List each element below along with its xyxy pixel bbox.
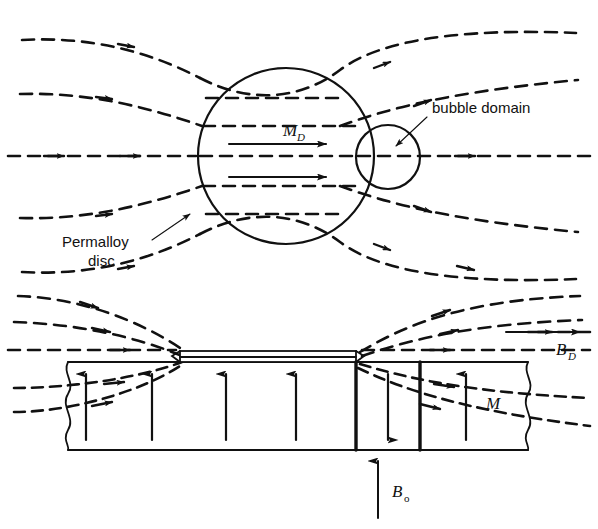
md-label: M <box>282 121 298 140</box>
b0-label-subscript: o <box>404 492 410 504</box>
bubble-domain-label: bubble domain <box>432 99 530 116</box>
m-label: M <box>485 394 501 413</box>
b0-label: B <box>392 482 403 501</box>
permalloy-layer-cross-section <box>172 351 364 362</box>
permalloy-label-line1: Permalloy <box>62 233 129 250</box>
permalloy-label-line2: disc <box>88 252 115 269</box>
bd-label-subscript: D <box>567 350 576 362</box>
magnetic-bubble-diagram: bubble domain Permalloy disc M D <box>0 0 598 529</box>
diagram-canvas: bubble domain Permalloy disc M D <box>0 0 598 529</box>
md-label-subscript: D <box>296 131 305 143</box>
bd-label: B <box>556 340 567 359</box>
